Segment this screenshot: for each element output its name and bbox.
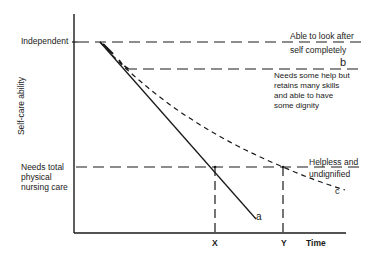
middle-annotation-line2: retains many skills: [274, 81, 339, 91]
bottom-annotation-line1: Helpless and: [309, 157, 358, 168]
y-marker-label: Y: [281, 238, 287, 249]
x-intersection: [214, 166, 217, 169]
curve-c: [100, 42, 345, 190]
independent-label: Independent: [21, 36, 68, 47]
total-care-label-line2: physical: [21, 172, 52, 183]
x-marker-label: X: [212, 238, 218, 249]
middle-annotation-line3: and able to have: [274, 91, 333, 101]
bottom-annotation-line2: undignified: [309, 169, 350, 180]
top-annotation-line2: self completely: [290, 45, 346, 56]
x-axis-label: Time: [306, 238, 326, 249]
curve-a-label: a: [256, 212, 262, 223]
curve-b: [103, 44, 113, 54]
y-axis-label: Self-care ability: [16, 71, 26, 141]
total-care-label-line3: nursing care: [21, 182, 68, 193]
y-intersection: [282, 166, 285, 169]
curve-b-label: b: [340, 57, 346, 68]
total-care-label-line1: Needs total: [21, 162, 64, 173]
curve-c-label: c: [335, 186, 340, 197]
middle-annotation-line1: Needs some help but: [274, 71, 350, 81]
top-annotation-line1: Able to look after: [290, 31, 354, 42]
middle-annotation-line4: some dignity: [274, 101, 319, 111]
